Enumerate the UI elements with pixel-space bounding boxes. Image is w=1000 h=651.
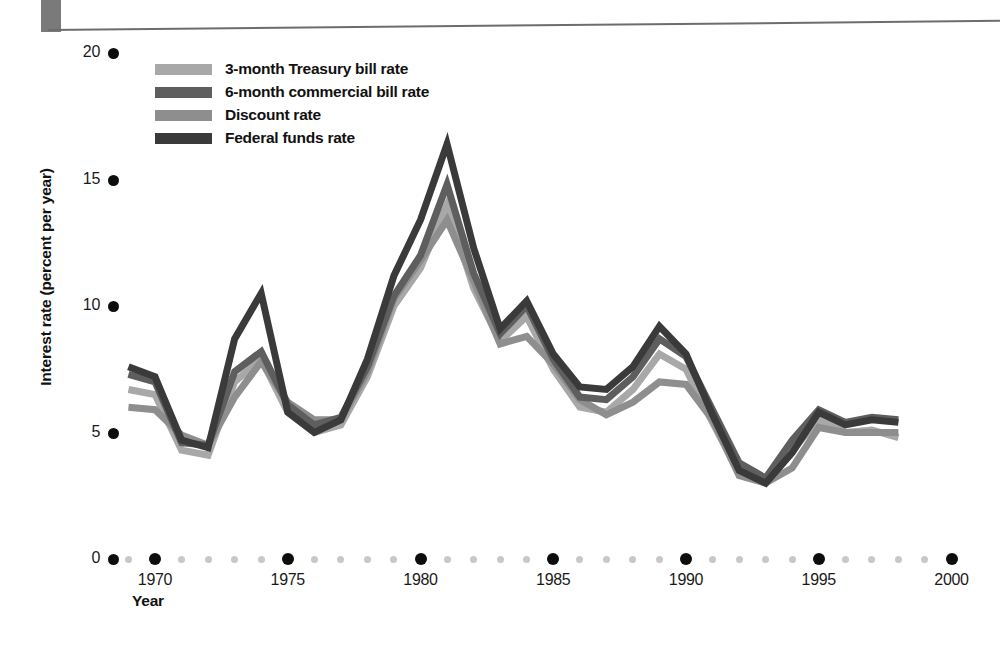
legend-item-3: Federal funds rate bbox=[155, 127, 429, 149]
legend-label-0: 3-month Treasury bill rate bbox=[225, 60, 408, 78]
legend-label-3: Federal funds rate bbox=[225, 129, 355, 147]
series-lines bbox=[0, 0, 1000, 651]
figure-container: 20151050 1970197519801985199019952000 In… bbox=[0, 0, 1000, 651]
plot-area: 20151050 1970197519801985199019952000 In… bbox=[0, 0, 1000, 651]
legend-swatch-0 bbox=[155, 64, 212, 75]
legend-swatch-1 bbox=[155, 87, 212, 98]
legend-swatch-3 bbox=[155, 133, 212, 144]
series-line-3 bbox=[128, 144, 898, 483]
y-axis-title: Interest rate (percent per year) bbox=[37, 127, 55, 427]
legend-label-1: 6-month commercial bill rate bbox=[225, 83, 429, 101]
legend-item-1: 6-month commercial bill rate bbox=[155, 81, 429, 103]
x-axis-title: Year bbox=[132, 592, 164, 610]
series-line-2 bbox=[128, 220, 898, 483]
legend-label-2: Discount rate bbox=[225, 106, 321, 124]
legend-swatch-2 bbox=[155, 110, 212, 121]
chart-legend: 3-month Treasury bill rate6-month commer… bbox=[155, 58, 429, 150]
legend-item-2: Discount rate bbox=[155, 104, 429, 126]
legend-item-0: 3-month Treasury bill rate bbox=[155, 58, 429, 80]
series-line-0 bbox=[128, 205, 898, 483]
